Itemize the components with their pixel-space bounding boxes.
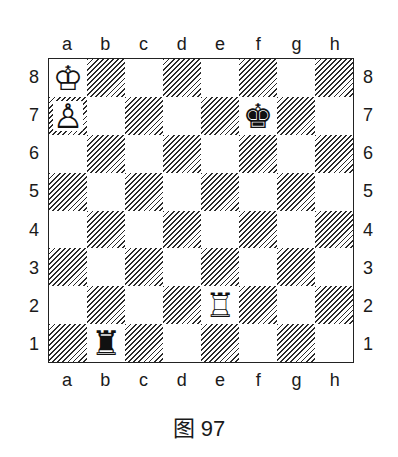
square-h5[interactable] (315, 173, 353, 211)
square-g6[interactable] (277, 135, 315, 173)
square-b5[interactable] (87, 173, 125, 211)
square-f2[interactable] (239, 286, 277, 324)
rank-label-4: 4 (24, 220, 44, 241)
square-f1[interactable] (239, 324, 277, 362)
square-h2[interactable] (315, 286, 353, 324)
rank-label-3: 3 (358, 258, 378, 279)
file-label-h: h (316, 34, 354, 55)
file-label-f: f (239, 370, 277, 391)
square-g8[interactable] (277, 59, 315, 97)
square-d2[interactable] (163, 286, 201, 324)
square-h7[interactable] (315, 97, 353, 135)
square-a1[interactable] (49, 324, 87, 362)
square-h1[interactable] (315, 324, 353, 362)
file-label-a: a (48, 370, 86, 391)
square-g5[interactable] (277, 173, 315, 211)
square-e5[interactable] (201, 173, 239, 211)
square-e2[interactable]: ♖ (201, 286, 239, 324)
rank-label-1: 1 (358, 334, 378, 355)
square-d4[interactable] (163, 211, 201, 249)
square-a5[interactable] (49, 173, 87, 211)
square-d3[interactable] (163, 248, 201, 286)
square-a4[interactable] (49, 211, 87, 249)
square-e4[interactable] (201, 211, 239, 249)
square-d6[interactable] (163, 135, 201, 173)
square-h3[interactable] (315, 248, 353, 286)
square-b6[interactable] (87, 135, 125, 173)
black-rook-icon[interactable]: ♜ (91, 326, 121, 360)
white-rook-icon[interactable]: ♖ (205, 288, 235, 322)
square-g3[interactable] (277, 248, 315, 286)
rank-label-5: 5 (358, 181, 378, 202)
square-h8[interactable] (315, 59, 353, 97)
square-b4[interactable] (87, 211, 125, 249)
square-b1[interactable]: ♜ (87, 324, 125, 362)
square-c2[interactable] (125, 286, 163, 324)
square-f6[interactable] (239, 135, 277, 173)
square-g7[interactable] (277, 97, 315, 135)
square-e7[interactable] (201, 97, 239, 135)
rank-label-2: 2 (24, 296, 44, 317)
square-f7[interactable]: ♚ (239, 97, 277, 135)
square-c3[interactable] (125, 248, 163, 286)
file-label-h: h (316, 370, 354, 391)
square-b7[interactable] (87, 97, 125, 135)
file-label-c: c (125, 34, 163, 55)
rank-label-8: 8 (24, 67, 44, 88)
square-b2[interactable] (87, 286, 125, 324)
rank-label-7: 7 (358, 105, 378, 126)
square-d7[interactable] (163, 97, 201, 135)
square-e1[interactable] (201, 324, 239, 362)
square-b8[interactable] (87, 59, 125, 97)
square-d8[interactable] (163, 59, 201, 97)
square-g2[interactable] (277, 286, 315, 324)
file-label-e: e (201, 34, 239, 55)
square-c8[interactable] (125, 59, 163, 97)
square-d5[interactable] (163, 173, 201, 211)
square-h4[interactable] (315, 211, 353, 249)
rank-label-6: 6 (24, 143, 44, 164)
square-f4[interactable] (239, 211, 277, 249)
square-e6[interactable] (201, 135, 239, 173)
square-c7[interactable] (125, 97, 163, 135)
white-king-icon[interactable]: ♔ (53, 61, 83, 95)
square-d1[interactable] (163, 324, 201, 362)
square-e3[interactable] (201, 248, 239, 286)
square-g4[interactable] (277, 211, 315, 249)
rank-label-1: 1 (24, 334, 44, 355)
file-label-f: f (239, 34, 277, 55)
square-h6[interactable] (315, 135, 353, 173)
square-a3[interactable] (49, 248, 87, 286)
file-label-d: d (163, 370, 201, 391)
square-f3[interactable] (239, 248, 277, 286)
white-pawn-icon[interactable]: ♙ (53, 99, 83, 133)
square-b3[interactable] (87, 248, 125, 286)
square-c1[interactable] (125, 324, 163, 362)
file-label-b: b (86, 34, 124, 55)
rank-label-4: 4 (358, 220, 378, 241)
square-f5[interactable] (239, 173, 277, 211)
square-a8[interactable]: ♔ (49, 59, 87, 97)
figure-caption: 图 97 (0, 410, 398, 442)
file-label-g: g (278, 370, 316, 391)
square-a2[interactable] (49, 286, 87, 324)
rank-label-6: 6 (358, 143, 378, 164)
square-e8[interactable] (201, 59, 239, 97)
rank-label-5: 5 (24, 181, 44, 202)
square-c4[interactable] (125, 211, 163, 249)
square-c5[interactable] (125, 173, 163, 211)
rank-label-7: 7 (24, 105, 44, 126)
file-label-c: c (125, 370, 163, 391)
square-g1[interactable] (277, 324, 315, 362)
square-a6[interactable] (49, 135, 87, 173)
rank-label-3: 3 (24, 258, 44, 279)
file-label-b: b (86, 370, 124, 391)
file-label-g: g (278, 34, 316, 55)
square-f8[interactable] (239, 59, 277, 97)
chess-board: ♔♙♚♖♜ (48, 58, 354, 363)
square-c6[interactable] (125, 135, 163, 173)
black-king-icon[interactable]: ♚ (243, 99, 273, 133)
file-label-d: d (163, 34, 201, 55)
square-a7[interactable]: ♙ (49, 97, 87, 135)
file-label-a: a (48, 34, 86, 55)
